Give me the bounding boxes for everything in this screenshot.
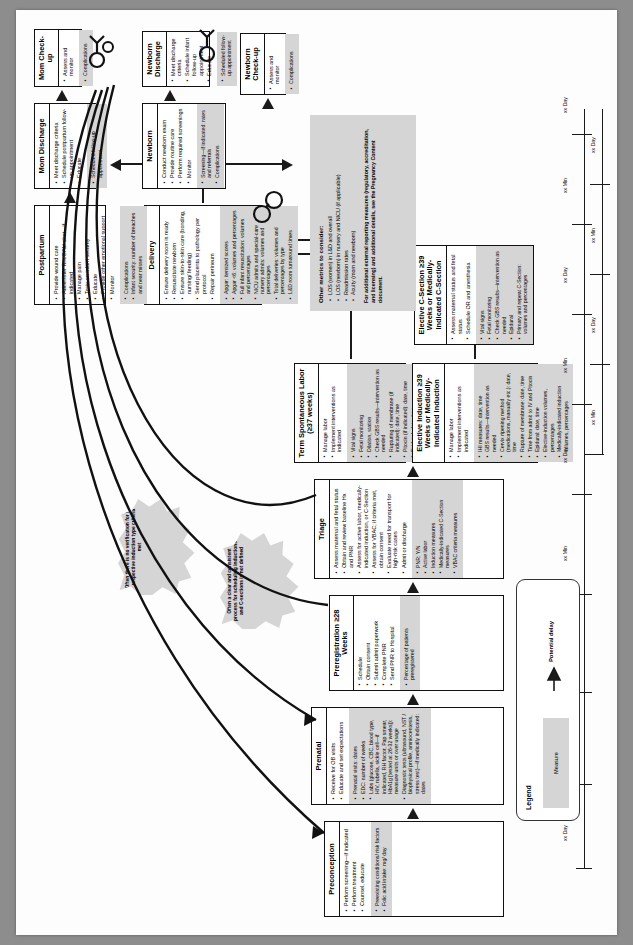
timeline-label: xx Min	[590, 228, 596, 243]
list-item: Epidural	[508, 249, 514, 334]
list-item: Schedule	[357, 599, 364, 680]
node-measures: Complications Infant security: number of…	[120, 206, 148, 304]
list-item: Active labor	[422, 483, 428, 568]
node-prenatal[interactable]: Prenatal Receive for OB visits Educate a…	[311, 707, 504, 805]
flow-arrow	[407, 808, 419, 819]
node-steps: Receive for OB visits Educate and set ex…	[327, 708, 349, 804]
list-item: Fetal monitoring	[358, 367, 364, 452]
timeline-tick	[572, 224, 592, 225]
node-steps: Ensure delivery room is ready Resuscitat…	[160, 206, 220, 304]
list-item: Apgar: itemized scores	[223, 209, 229, 294]
list-item: Counsel, educate	[359, 825, 366, 906]
list-item: Provide routine care	[169, 107, 176, 178]
list-item: Complications	[214, 107, 220, 178]
page-background: Preconception Perform screening—if indic…	[0, 0, 633, 945]
list-item: Ensure skin-to-skin care (bonding, nursi…	[179, 209, 192, 294]
list-item: Dilation, station	[366, 367, 372, 452]
node-title: Triage	[315, 480, 330, 578]
list-item: Assess maternal status and fetal status	[450, 249, 463, 334]
node-postpartum[interactable]: Postpartum Provide wound care Administer…	[34, 205, 106, 305]
list-item: Pitocin (if indicated): date, time	[402, 367, 408, 452]
timeline-tick	[584, 454, 604, 455]
flow-arrow	[407, 694, 419, 705]
newborn-figure-icon	[196, 29, 226, 63]
list-item: Obtain consent	[365, 599, 372, 680]
node-mom-check-up[interactable]: Mom Check-up Assess and monitor Complica…	[34, 29, 82, 87]
timeline-label: xx Day	[562, 447, 568, 463]
node-measures: Prenatal visits: dates EDC: number of we…	[349, 708, 430, 804]
list-item: Screening—if indicated: rates and referr…	[200, 107, 213, 178]
list-item: Educate and set expectations	[338, 711, 345, 794]
node-preregistration[interactable]: Preregistration ≥28 Weeks Schedule Obtai…	[329, 595, 504, 691]
node-measures: Screening—if indicated: rates and referr…	[197, 104, 225, 188]
list-item: Provide wound care	[53, 209, 60, 294]
list-item: Manage pain	[76, 209, 83, 294]
node-newborn-check-up[interactable]: Newborn Check-up Assess and monitor Comp…	[240, 33, 286, 95]
connector-line	[474, 345, 476, 359]
list-item: Check GBS results—intervention as needed	[494, 249, 507, 334]
node-term-spontaneous-labor[interactable]: Term Spontaneous Labor (≥37 weeks) Manag…	[294, 363, 406, 463]
node-delivery[interactable]: Delivery Ensure delivery room is ready R…	[144, 205, 262, 305]
node-measures: PNR: Y/N Active labor Induction measures…	[412, 480, 463, 578]
list-item: GBS results—intervention as needed	[484, 367, 497, 452]
list-item: Infant security: number of breaches and …	[130, 209, 143, 294]
list-item: Assess and monitor	[62, 33, 75, 76]
node-elective-induction[interactable]: Elective Induction ≥39 Weeks or Medicall…	[412, 363, 538, 463]
list-item: Perform screening—if indicated	[343, 825, 350, 906]
timeline-label: xx Min	[562, 546, 568, 561]
document-sheet: Preconception Perform screening—if indic…	[16, 10, 617, 935]
list-item: Vital signs	[350, 367, 356, 452]
node-steps: Conduct newborn exam Provide routine car…	[158, 104, 196, 188]
list-item: Implement interventions as indicated	[330, 367, 343, 452]
list-item: Train on infant security	[84, 209, 91, 294]
callout-verification: Often there is no verification for the r…	[118, 499, 196, 595]
list-item: Receive for OB visits	[330, 711, 337, 794]
list-item: Diagnostic tests (ultrasound, NST / biop…	[401, 711, 426, 794]
timeline-tick	[572, 494, 592, 495]
timeline-label: xx Day	[590, 317, 596, 333]
node-elective-c-section[interactable]: Elective C-Section ≥39 Weeks or Medicall…	[414, 245, 534, 345]
list-item: Meet discharge criteria	[53, 107, 60, 178]
node-title: Preregistration ≥28 Weeks	[330, 596, 354, 690]
legend-panel: Legend Measure Potential delay	[516, 579, 580, 821]
list-item: Medically-indicated induction volumes, p…	[556, 367, 569, 452]
flow-arrow	[110, 159, 121, 171]
timeline-tick	[576, 868, 592, 869]
list-item: Rupture of membrane: date, time	[519, 367, 525, 452]
timeline-baseline-secondary	[602, 109, 603, 455]
list-item: Educate	[76, 107, 83, 178]
node-preconception[interactable]: Preconception Perform screening—if indic…	[324, 821, 504, 917]
list-item: Prenatal visits: dates	[352, 711, 358, 794]
flow-arrow	[407, 466, 419, 477]
node-steps: Assess maternal and fetal status Obtain …	[330, 480, 411, 578]
list-item: Administer RhoGAM shot—if indicated	[61, 209, 74, 294]
timeline-label: xx Min	[590, 410, 596, 425]
list-item: Send PNR to Hospital	[389, 599, 396, 680]
list-item: Implement interventions as indicated	[456, 367, 469, 452]
list-item: Manage labor	[322, 367, 329, 452]
list-item: Complete PNR	[381, 599, 388, 680]
node-title: Newborn Discharge	[143, 32, 167, 86]
node-triage[interactable]: Triage Assess maternal and fetal status …	[314, 479, 504, 579]
flow-arrow	[407, 582, 419, 593]
list-item: Scheduled follow-up appointment	[90, 107, 103, 178]
list-item: Readmission rates	[343, 123, 350, 295]
mom-baby-figure-icon	[86, 35, 116, 69]
list-item: IHI measures: date, time	[477, 367, 483, 452]
list-item: Repair perineum	[209, 209, 216, 294]
node-mom-discharge[interactable]: Mom Discharge Meet discharge criteria Sc…	[34, 103, 96, 189]
list-item: PNR: Y/N	[415, 483, 421, 568]
list-item: Vital signs	[479, 249, 485, 334]
node-measures: Percentage of patients preregistered	[400, 596, 420, 690]
node-newborn[interactable]: Newborn Conduct newborn exam Provide rou…	[142, 103, 226, 189]
node-title: Postpartum	[35, 206, 50, 304]
node-steps: Provide wound care Administer RhoGAM sho…	[50, 206, 119, 304]
node-title: Elective Induction ≥39 Weeks or Medicall…	[413, 364, 445, 462]
timeline-tick	[572, 314, 592, 315]
list-item: Resuscitate newborn	[171, 209, 178, 294]
list-item: Send placenta to pathology per protocol	[194, 209, 207, 294]
note-title: Other metrics to consider:	[317, 123, 324, 303]
callout-scheduling: Often a clear and consistent process for…	[220, 533, 300, 629]
timeline-tick	[572, 134, 592, 135]
list-item: Monitor	[109, 209, 116, 294]
